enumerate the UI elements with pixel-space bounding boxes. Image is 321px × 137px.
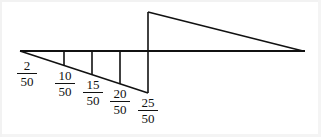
diagram-svg	[0, 0, 321, 137]
fraction-numerator: 15	[83, 78, 103, 92]
fraction-numerator: 25	[138, 96, 158, 110]
fraction-denominator: 50	[110, 102, 130, 116]
fraction-label-15-50: 1550	[83, 78, 103, 107]
fraction-denominator: 50	[55, 84, 75, 98]
upper-triangle-hypotenuse	[148, 12, 303, 51]
fraction-label-25-50: 2550	[138, 96, 158, 125]
fraction-numerator: 2	[17, 59, 37, 73]
fraction-denominator: 50	[138, 111, 158, 125]
fraction-denominator: 50	[17, 74, 37, 88]
fraction-label-20-50: 2050	[110, 87, 130, 116]
fraction-label-2-50: 250	[17, 59, 37, 88]
fraction-numerator: 20	[110, 87, 130, 101]
figure-canvas: 2501050155020502550	[0, 0, 321, 137]
fraction-denominator: 50	[83, 93, 103, 107]
fraction-numerator: 10	[55, 69, 75, 83]
fraction-label-10-50: 1050	[55, 69, 75, 98]
